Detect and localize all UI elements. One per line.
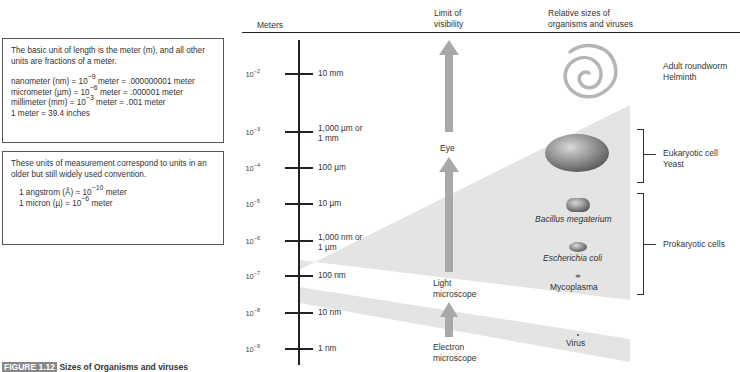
eukaryotic-label: Eukaryotic cell Yeast bbox=[663, 148, 718, 170]
prokaryotic-bracket bbox=[637, 193, 644, 295]
prokaryotic-label: Prokaryotic cells bbox=[663, 239, 725, 250]
virus-icon bbox=[577, 334, 579, 336]
figure-caption: FIGURE 1.12 Sizes of Organisms and virus… bbox=[2, 362, 188, 372]
mycoplasma-icon bbox=[576, 275, 581, 278]
roundworm-label: Adult roundworm Helminth bbox=[663, 61, 727, 83]
roundworm-icon bbox=[565, 46, 616, 97]
ecoli-icon bbox=[569, 242, 587, 252]
bacillus-icon bbox=[566, 198, 590, 212]
mycoplasma-label: Mycoplasma bbox=[550, 282, 598, 293]
eukaryotic-bracket bbox=[637, 129, 644, 183]
ecoli-label: Escherichia coli bbox=[543, 253, 602, 264]
bacillus-label: Bacillus megaterium bbox=[535, 214, 612, 225]
yeast-cell-icon bbox=[545, 134, 609, 172]
virus-label: Virus bbox=[566, 338, 585, 349]
